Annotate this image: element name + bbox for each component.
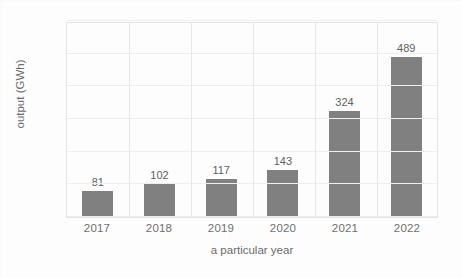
bar[interactable] <box>82 191 113 217</box>
bar-value-label: 117 <box>212 164 230 176</box>
x-axis-tick-label: 2021 <box>314 222 376 240</box>
x-axis-tick-label: 2019 <box>190 222 252 240</box>
gridline-horizontal <box>67 216 437 217</box>
bar[interactable] <box>391 57 422 217</box>
gridline-vertical <box>377 23 378 217</box>
bar[interactable] <box>267 170 298 217</box>
x-axis-title: a particular year <box>66 244 438 256</box>
x-axis-tick-label: 2017 <box>66 222 128 240</box>
x-axis-tick-label: 2020 <box>252 222 314 240</box>
gridline-horizontal <box>67 183 437 184</box>
bar-value-label: 143 <box>274 155 292 167</box>
gridline-vertical <box>129 23 130 217</box>
gridline-horizontal <box>67 85 437 86</box>
gridline-vertical <box>315 23 316 217</box>
gridline-horizontal <box>67 151 437 152</box>
x-axis-ticks: 201720182019202020212022 <box>66 222 438 240</box>
gridline-vertical <box>253 23 254 217</box>
bar-value-label: 102 <box>150 169 168 181</box>
gridline-vertical <box>191 23 192 217</box>
x-axis-tick-label: 2018 <box>128 222 190 240</box>
bar-chart: output (GWh) 0100200300400500600 8110211… <box>0 0 462 278</box>
bar-value-label: 81 <box>92 176 104 188</box>
gridline-horizontal <box>67 20 437 21</box>
bar[interactable] <box>206 179 237 217</box>
gridline-horizontal <box>67 118 437 119</box>
bar[interactable] <box>329 111 360 217</box>
plot-area: 81102117143324489 <box>66 22 438 218</box>
x-axis-tick-label: 2022 <box>376 222 438 240</box>
gridline-horizontal <box>67 53 437 54</box>
bar[interactable] <box>144 184 175 217</box>
bar-value-label: 324 <box>335 96 353 108</box>
